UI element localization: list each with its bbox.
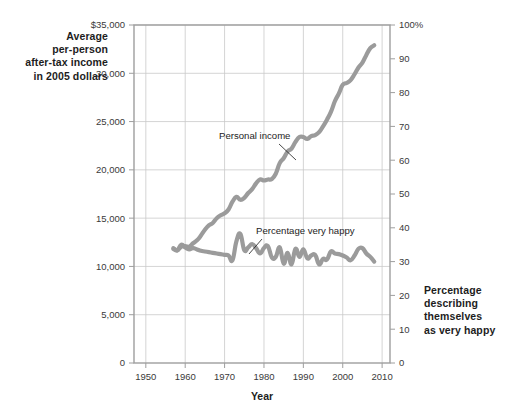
right-axis-title-line-3: as very happy <box>424 324 504 337</box>
x-axis-title-text: Year <box>251 390 273 402</box>
left-axis-title-line-0: Average <box>2 30 108 43</box>
left-axis-title-line-3: in 2005 dollars <box>2 70 108 83</box>
y-tick-label: 25,000 <box>96 116 125 127</box>
y-tick-label: $35,000 <box>91 19 125 30</box>
x-tick-label: 1980 <box>253 371 274 382</box>
y2-tick-label: 60 <box>399 155 410 166</box>
y2-tick-label: 10 <box>399 324 410 335</box>
y2-tick-label: 20 <box>399 290 410 301</box>
series-line-personal-income <box>173 45 374 250</box>
right-axis-title-line-2: themselves <box>424 310 504 323</box>
y2-tick-label: 50 <box>399 188 410 199</box>
x-axis-tick-labels: 1950196019701980199020002010 <box>135 371 392 382</box>
y2-tick-label: 70 <box>399 121 410 132</box>
right-axis-title-line-1: describing <box>424 297 504 310</box>
chart-figure: Averageper-personafter-tax incomein 2005… <box>0 0 505 420</box>
y-tick-label: 5,000 <box>101 309 125 320</box>
right-axis-title-line-0: Percentage <box>424 284 504 297</box>
y-tick-label: 15,000 <box>96 213 125 224</box>
y2-tick-label: 0 <box>399 357 404 368</box>
x-tick-label: 1990 <box>293 371 314 382</box>
x-tick-label: 1960 <box>175 371 196 382</box>
left-axis-title-line-2: after-tax income <box>2 56 108 69</box>
annotation-label-1: Percentage very happy <box>256 225 355 236</box>
y-tick-label: 10,000 <box>96 261 125 272</box>
y2-tick-label: 30 <box>399 256 410 267</box>
y2-tick-label: 40 <box>399 222 410 233</box>
annotation-label-0: Personal income <box>219 130 290 141</box>
left-axis-title-block: Averageper-personafter-tax incomein 2005… <box>2 30 108 83</box>
x-tick-label: 1950 <box>135 371 156 382</box>
series-line-percentage-very-happy <box>173 233 374 264</box>
x-tick-label: 2000 <box>332 371 353 382</box>
x-axis-title: Year <box>251 390 273 402</box>
y2-tick-label: 80 <box>399 87 410 98</box>
y-tick-label: 20,000 <box>96 164 125 175</box>
y-tick-label: 0 <box>120 357 125 368</box>
y2-tick-label: 90 <box>399 53 410 64</box>
y2-tick-label: 100% <box>399 19 424 30</box>
left-axis-title-line-1: per-person <box>2 43 108 56</box>
y2-axis-tick-labels: 0102030405060708090100% <box>399 19 424 368</box>
right-axis-title-block: Percentagedescribingthemselvesas very ha… <box>424 284 504 337</box>
x-tick-label: 1970 <box>214 371 235 382</box>
x-tick-label: 2010 <box>372 371 393 382</box>
